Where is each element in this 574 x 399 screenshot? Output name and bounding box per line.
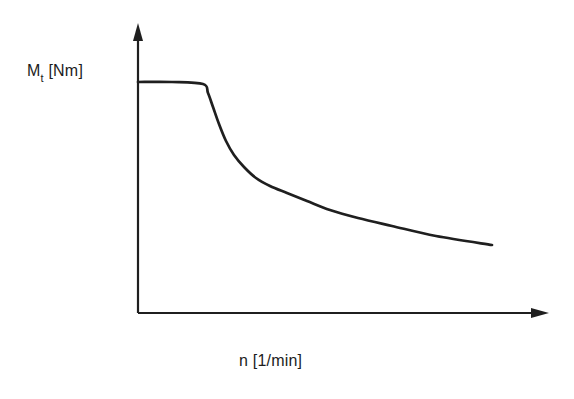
chart-svg xyxy=(0,0,574,399)
x-axis-label: n [1/min] xyxy=(239,352,302,370)
y-axis-symbol: M xyxy=(27,62,41,79)
y-axis-label: Mt [Nm] xyxy=(27,62,83,80)
torque-speed-chart: Mt [Nm] n [1/min] xyxy=(0,0,574,399)
y-axis-unit: [Nm] xyxy=(48,62,83,79)
y-axis-subscript: t xyxy=(41,72,44,84)
